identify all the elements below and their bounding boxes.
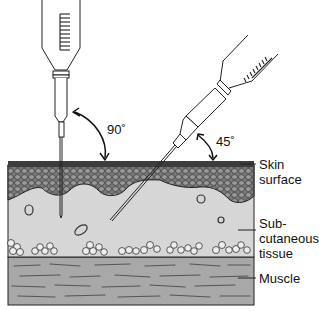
injection-angle-diagram: 90˚ 45˚ Skin surface Sub- cutaneous tiss… [0, 0, 319, 311]
angle-arc-45 [197, 134, 217, 160]
angle-label-45: 45˚ [216, 134, 235, 149]
diagram-graphic [0, 0, 319, 311]
muscle-layer [8, 257, 254, 305]
angle-label-90: 90˚ [107, 122, 126, 137]
angle-arc-90 [73, 108, 109, 160]
label-muscle: Muscle [259, 271, 300, 286]
label-subcutaneous-tissue: Sub- cutaneous tissue [259, 216, 319, 261]
label-skin-surface: Skin surface [259, 157, 302, 187]
